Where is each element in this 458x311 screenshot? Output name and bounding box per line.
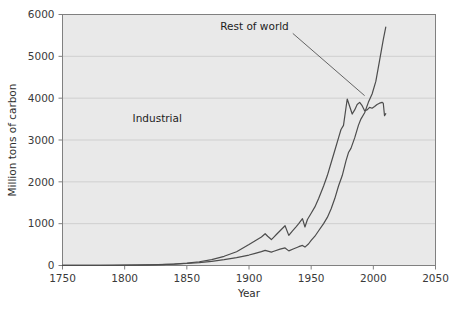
x-axis-title: Year: [237, 287, 261, 299]
y-axis-title: Million tons of carbon: [6, 84, 18, 197]
x-tick-label-1900: 1900: [236, 272, 263, 284]
x-tick-label-1800: 1800: [111, 272, 138, 284]
y-tick-label-6000: 6000: [28, 8, 55, 20]
y-tick-label-3000: 3000: [28, 134, 55, 146]
x-tick-label-1850: 1850: [173, 272, 200, 284]
x-tick-label-1750: 1750: [49, 272, 76, 284]
y-tick-label-1000: 1000: [28, 217, 55, 229]
x-tick-label-2000: 2000: [360, 272, 387, 284]
y-tick-label-2000: 2000: [28, 176, 55, 188]
emissions-line-chart: 1750180018501900195020002050 01000200030…: [0, 0, 458, 311]
x-tick-label-2050: 2050: [422, 272, 449, 284]
chart-figure: 1750180018501900195020002050 01000200030…: [0, 0, 458, 311]
y-tick-label-5000: 5000: [28, 50, 55, 62]
series-label-industrial: Industrial: [133, 112, 182, 124]
x-tick-label-1950: 1950: [298, 272, 325, 284]
y-tick-label-4000: 4000: [28, 92, 55, 104]
y-tick-label-0: 0: [48, 259, 55, 271]
series-label-rest-of-world: Rest of world: [220, 20, 289, 32]
